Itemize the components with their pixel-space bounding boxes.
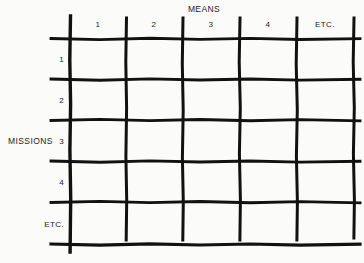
row-header-5: ETC. [44, 220, 64, 229]
row-header-2: 2 [59, 96, 64, 105]
horizontal-line-2 [51, 119, 360, 120]
row-header-1: 1 [59, 55, 64, 64]
column-header-4: 4 [266, 20, 271, 29]
vertical-line-2 [182, 18, 183, 240]
vertical-line-3 [239, 18, 240, 240]
horizontal-line-top [51, 38, 360, 39]
column-header-1: 1 [96, 20, 101, 29]
horizontal-line-bottom [51, 244, 360, 245]
vertical-grid-lines [70, 16, 355, 252]
horizontal-line-1 [51, 79, 360, 80]
column-header-2: 2 [152, 20, 157, 29]
column-header-3: 3 [209, 20, 214, 29]
column-header-5: ETC. [315, 20, 335, 29]
matrix-diagram: MEANS 1 2 3 4 ETC. MISSIONS 1 2 3 4 ETC. [0, 0, 364, 263]
vertical-line-axis [70, 16, 71, 252]
vertical-line-1 [126, 18, 127, 240]
row-header-4: 4 [59, 178, 64, 187]
column-axis-title: MEANS [0, 4, 364, 14]
row-header-3: 3 [59, 137, 64, 146]
row-axis-title: MISSIONS [8, 136, 53, 146]
horizontal-line-4 [51, 201, 360, 202]
horizontal-line-3 [51, 161, 360, 162]
vertical-line-5 [353, 18, 354, 238]
vertical-line-4 [296, 18, 297, 240]
horizontal-grid-lines [51, 38, 360, 245]
